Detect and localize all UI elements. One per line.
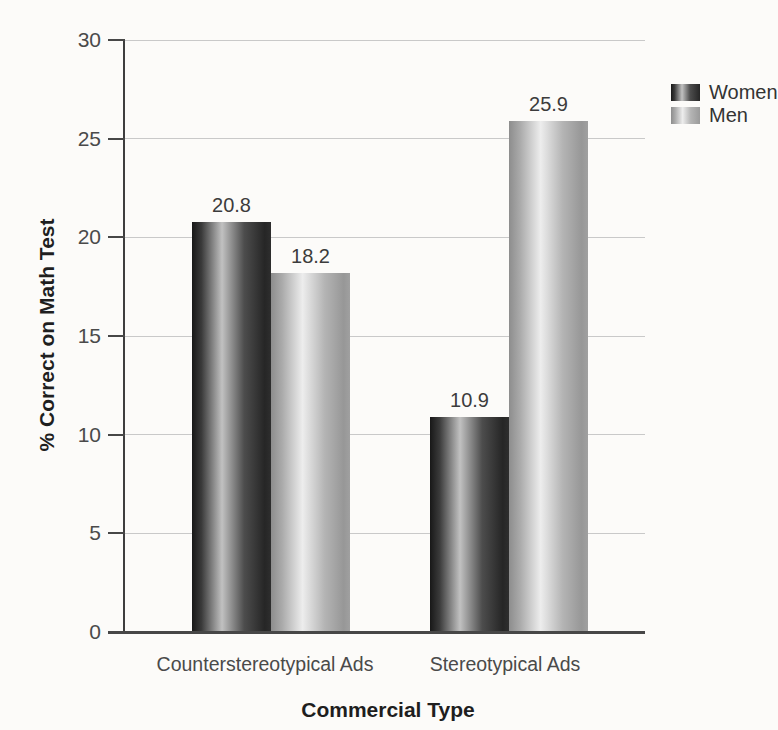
x-axis-title: Commercial Type	[238, 698, 538, 722]
category-label-stereotypical: Stereotypical Ads	[385, 653, 625, 676]
y-tick-20	[108, 236, 125, 238]
y-tick-label-25: 25	[55, 126, 101, 152]
y-tick-label-20: 20	[55, 224, 101, 250]
plot-area: 20.810.918.225.9 051015202530 Women Men	[123, 40, 645, 632]
women-swatch-icon	[671, 84, 700, 101]
y-tick-label-30: 30	[55, 27, 101, 53]
y-tick-label-15: 15	[55, 323, 101, 349]
bar-value-label-men-1: 25.9	[503, 93, 594, 116]
bar-value-label-women-1: 10.9	[424, 389, 515, 412]
bar-men-0	[271, 273, 350, 632]
bar-value-label-men-0: 18.2	[265, 245, 356, 268]
y-tick-25	[108, 138, 125, 140]
y-tick-15	[108, 335, 125, 337]
y-tick-5	[108, 532, 125, 534]
bar-women-1	[430, 417, 509, 632]
gridline-30	[125, 40, 645, 41]
bar-value-label-women-0: 20.8	[186, 194, 277, 217]
bar-women-0	[192, 222, 271, 632]
y-tick-label-5: 5	[55, 520, 101, 546]
category-label-counterstereotypical: Counterstereotypical Ads	[125, 653, 405, 676]
legend-item-men: Men	[671, 107, 778, 124]
men-swatch-icon	[671, 107, 700, 124]
legend-item-women: Women	[671, 84, 778, 101]
y-tick-10	[108, 434, 125, 436]
x-axis-line	[108, 631, 645, 634]
bar-men-1	[509, 121, 588, 632]
y-tick-label-10: 10	[55, 422, 101, 448]
legend-label-women: Women	[709, 84, 778, 101]
legend: Women Men	[671, 84, 778, 130]
y-tick-label-0: 0	[55, 619, 101, 645]
y-tick-30	[108, 39, 125, 41]
legend-label-men: Men	[709, 107, 748, 124]
